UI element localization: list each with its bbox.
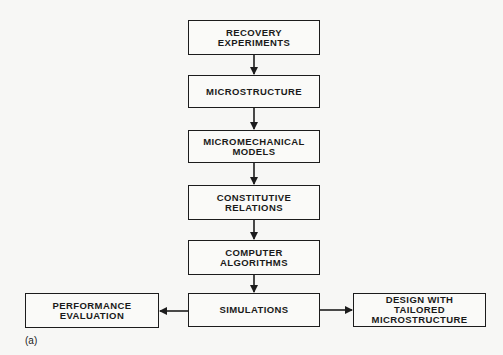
node-simulations: SIMULATIONS (188, 293, 320, 327)
node-recovery-experiments: RECOVERY EXPERIMENTS (188, 20, 320, 55)
node-computer-algorithms: COMPUTER ALGORITHMS (188, 240, 320, 275)
figure-caption: (a) (25, 335, 37, 346)
node-performance-evaluation: PERFORMANCE EVALUATION (25, 293, 159, 328)
node-constitutive-relations: CONSTITUTIVE RELATIONS (188, 185, 320, 220)
node-microstructure: MICROSTRUCTURE (188, 75, 320, 108)
node-micromechanical-models: MICROMECHANICAL MODELS (188, 130, 320, 163)
node-design-tailored-microstructure: DESIGN WITH TAILORED MICROSTRUCTURE (353, 293, 486, 327)
